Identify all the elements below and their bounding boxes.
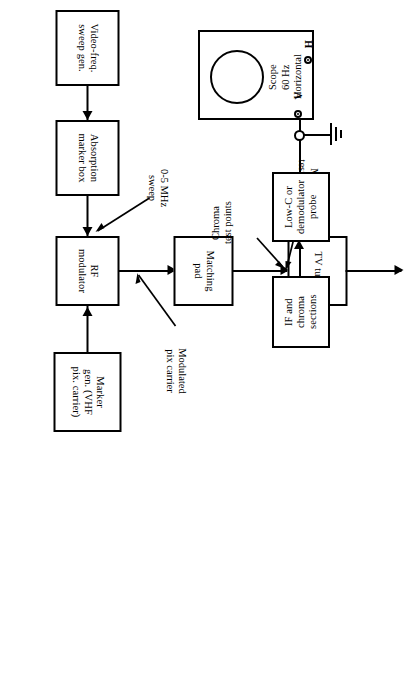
upper-diagram-layer: IF and chroma sections Low-C or demodula… [0, 0, 419, 690]
ground-bar-1 [330, 123, 332, 145]
scope-horizontal-terminal-jack[interactable] [304, 56, 312, 64]
scope-vertical-terminal-jack[interactable] [294, 110, 302, 118]
ground-bar-2 [335, 127, 337, 141]
scope-crt-screen [210, 50, 264, 104]
wire-junction-to-v-terminal [299, 118, 301, 132]
scope-instrument[interactable]: Scope 60 Hz Horizontal V H [198, 30, 314, 120]
scope-label: Scope 60 Hz Horizontal [266, 40, 306, 114]
scope-vertical-terminal-label: V [293, 92, 304, 100]
scope-horizontal-terminal-label: H [303, 40, 314, 48]
wire-junction-to-ground [304, 134, 330, 136]
ground-bar-3 [340, 130, 342, 138]
